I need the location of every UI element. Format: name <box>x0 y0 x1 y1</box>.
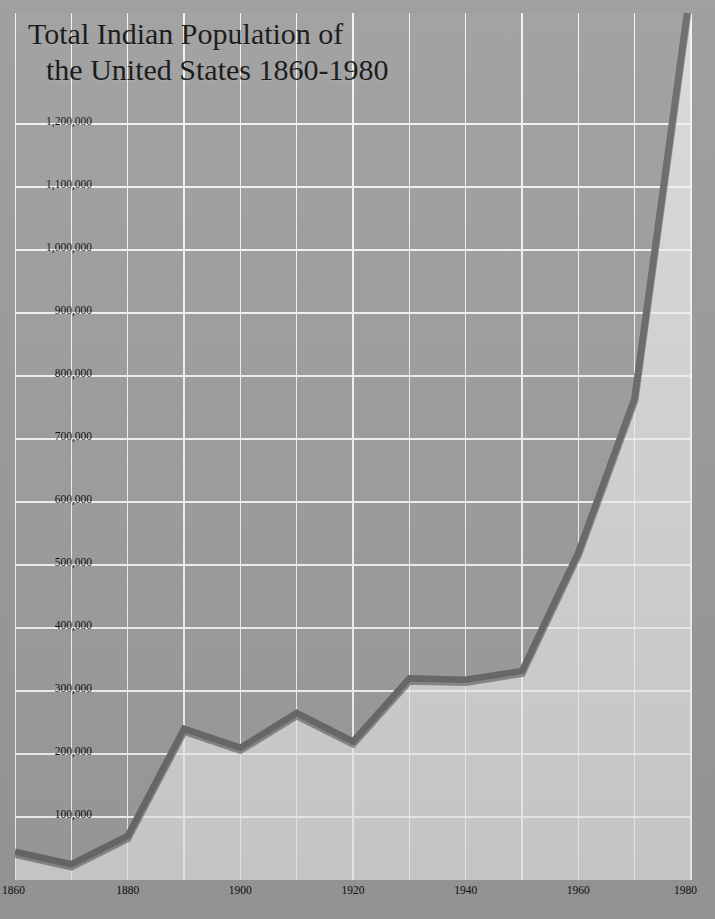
top-margin-band <box>0 0 715 13</box>
bottom-margin-band <box>0 880 715 919</box>
left-margin-band <box>0 0 15 919</box>
chart-svg <box>15 13 692 880</box>
right-margin-band <box>692 0 715 919</box>
plot-area <box>15 13 692 880</box>
chart-page: Total Indian Population of the United St… <box>0 0 715 919</box>
